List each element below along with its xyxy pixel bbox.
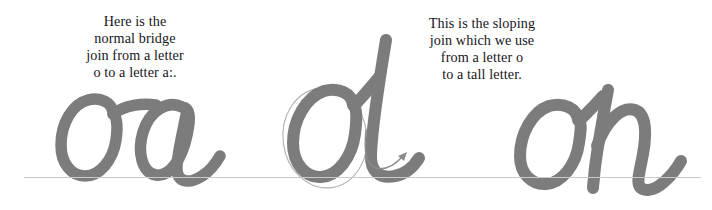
oh-strokes bbox=[498, 84, 708, 198]
letter-o-glyph bbox=[520, 105, 581, 184]
caption-bridge-join: Here is the normal bridge join from a le… bbox=[42, 13, 228, 81]
handwriting-sample-oh bbox=[498, 84, 708, 198]
writing-baseline bbox=[24, 177, 701, 178]
handwriting-join-figure: Here is the normal bridge join from a le… bbox=[0, 0, 712, 210]
letter-l-glyph bbox=[371, 40, 419, 177]
handwriting-sample-oa bbox=[30, 88, 260, 198]
oa-strokes bbox=[30, 88, 260, 198]
handwriting-sample-ol bbox=[268, 30, 458, 198]
letter-a-stem-exit bbox=[177, 110, 220, 181]
ol-strokes bbox=[268, 30, 458, 198]
letter-o-glyph bbox=[293, 90, 356, 177]
